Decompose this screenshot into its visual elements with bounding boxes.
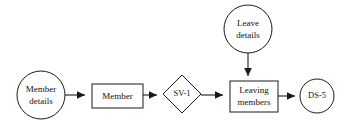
node-label-line1: SV-1 — [173, 88, 190, 98]
circle-shape — [17, 71, 65, 119]
arrow-head-icon — [215, 91, 223, 99]
arrow-head-icon — [77, 91, 85, 99]
node-leave-details[interactable]: Leave details — [224, 5, 272, 53]
arrow-head-icon — [244, 68, 252, 76]
circle-shape — [224, 5, 272, 53]
edge-sv-1-to-leaving-members — [201, 91, 223, 99]
edge-leave-details-to-leaving-members — [244, 53, 252, 76]
node-label-line1: Member — [26, 84, 57, 94]
node-sv-1[interactable]: SV-1 — [163, 75, 201, 113]
edge-leaving-members-to-ds-5 — [278, 92, 295, 100]
node-ds-5[interactable]: DS-5 — [300, 79, 334, 113]
node-label-line2: details — [29, 96, 53, 106]
node-label-line2: members — [238, 97, 271, 107]
node-label-line1: Member — [102, 91, 133, 101]
edge-member-to-sv-1 — [143, 91, 157, 99]
node-label-line1: Leave — [237, 18, 259, 28]
node-label-line1: DS-5 — [308, 90, 326, 100]
edge-member-details-to-member — [65, 91, 85, 99]
arrow-head-icon — [149, 91, 157, 99]
diagram-canvas: Member details Member SV-1 Leave details… — [0, 0, 345, 129]
data-flow-diagram: Member details Member SV-1 Leave details… — [0, 0, 345, 129]
node-member-details[interactable]: Member details — [17, 71, 65, 119]
node-label-line1: Leaving — [239, 85, 269, 95]
node-member[interactable]: Member — [92, 84, 143, 108]
arrow-head-icon — [287, 92, 295, 100]
node-label-line2: details — [236, 30, 260, 40]
node-leaving-members[interactable]: Leaving members — [230, 81, 278, 112]
